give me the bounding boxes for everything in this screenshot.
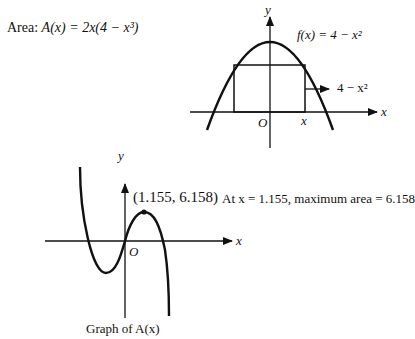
- bottom-x-axis-label: x: [236, 233, 242, 249]
- top-x-tick-label: x: [301, 113, 307, 129]
- height-label: 4 − x²: [337, 80, 368, 96]
- bottom-origin-label: O: [129, 244, 138, 260]
- maximum-point: [141, 209, 146, 214]
- area-prefix: Area:: [7, 20, 42, 35]
- conclusion-text: At x = 1.155, maximum area = 6.158: [222, 191, 415, 207]
- area-formula: Area: A(x) = 2x(4 − x³): [7, 20, 139, 36]
- function-label: f(x) = 4 − x²: [297, 27, 362, 43]
- top-origin-label: O: [258, 115, 267, 131]
- bottom-y-axis-label: y: [118, 148, 124, 164]
- area-expression: A(x) = 2x(4 − x³): [42, 20, 139, 35]
- maximum-point-label: (1.155, 6.158): [133, 189, 218, 206]
- top-x-axis-label: x: [381, 104, 387, 120]
- top-y-axis-label: y: [265, 2, 271, 18]
- graph-caption: Graph of A(x): [86, 321, 160, 337]
